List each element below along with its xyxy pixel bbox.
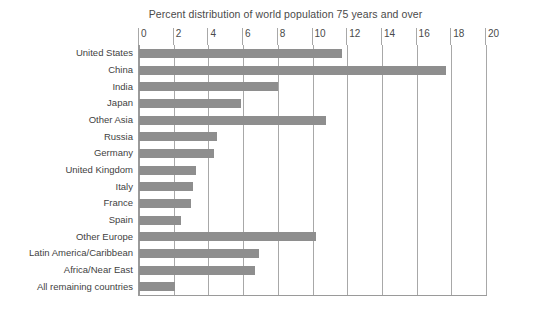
x-tick-label: 18 (450, 28, 464, 39)
bar-row (139, 199, 486, 208)
bar (139, 149, 214, 158)
bar (139, 266, 255, 275)
bar (139, 232, 316, 241)
bar-row (139, 82, 486, 91)
bar (139, 182, 193, 191)
bar-row (139, 132, 486, 141)
x-tick-label: 8 (277, 28, 286, 39)
category-label: Spain (0, 214, 133, 225)
category-label: Italy (0, 181, 133, 192)
bar-row (139, 99, 486, 108)
category-label: Africa/Near East (0, 264, 133, 275)
bar (139, 199, 191, 208)
bar (139, 132, 217, 141)
x-tick-label: 20 (485, 28, 499, 39)
bar-row (139, 216, 486, 225)
category-label: United States (0, 47, 133, 58)
chart-figure: Percent distribution of world population… (0, 0, 533, 316)
x-tick-label: 0 (138, 28, 147, 39)
category-label: Other Asia (0, 114, 133, 125)
category-label: France (0, 197, 133, 208)
bar-row (139, 116, 486, 125)
gridline-20 (486, 45, 487, 295)
x-tick-label: 14 (381, 28, 395, 39)
bar-row (139, 249, 486, 258)
x-tick-label: 2 (173, 28, 182, 39)
bar-row (139, 166, 486, 175)
x-tick-label: 4 (207, 28, 216, 39)
bar (139, 166, 196, 175)
chart-title: Percent distribution of world population… (0, 8, 533, 20)
bar-row (139, 266, 486, 275)
plot-area (138, 45, 487, 296)
category-label: Germany (0, 147, 133, 158)
category-label: All remaining countries (0, 281, 133, 292)
category-label: Other Europe (0, 231, 133, 242)
bar (139, 82, 278, 91)
bar (139, 99, 241, 108)
y-axis-category-labels: United StatesChinaIndiaJapanOther AsiaRu… (0, 45, 133, 295)
bar-row (139, 66, 486, 75)
category-label: Latin America/Caribbean (0, 247, 133, 258)
category-label: Russia (0, 131, 133, 142)
bar-series (139, 45, 486, 295)
category-label: China (0, 64, 133, 75)
bar (139, 282, 175, 291)
category-label: Japan (0, 97, 133, 108)
x-tick-label: 10 (312, 28, 326, 39)
bar-row (139, 182, 486, 191)
x-axis-tick-labels: 02468101214161820 (138, 28, 487, 44)
category-label: India (0, 81, 133, 92)
bar (139, 216, 181, 225)
x-tick-label: 16 (416, 28, 430, 39)
x-tick-label: 12 (346, 28, 360, 39)
bar (139, 49, 342, 58)
category-label: United Kingdom (0, 164, 133, 175)
bar (139, 249, 259, 258)
bar (139, 116, 326, 125)
bar-row (139, 282, 486, 291)
bar (139, 66, 446, 75)
x-tick-label: 6 (242, 28, 251, 39)
bar-row (139, 232, 486, 241)
bar-row (139, 149, 486, 158)
bar-row (139, 49, 486, 58)
